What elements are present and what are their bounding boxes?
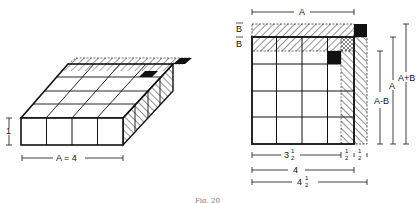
label-a-minus-b: A-B bbox=[374, 96, 389, 106]
figure-canvas: 1 A = 4 A B B bbox=[0, 0, 418, 203]
frac-num-2: 1 bbox=[345, 148, 349, 154]
right-hatch-strip bbox=[354, 37, 367, 144]
left-label-b-inner: B bbox=[236, 39, 242, 49]
top-dimension-label: A bbox=[299, 7, 305, 17]
frac-den-4: 2 bbox=[305, 182, 309, 188]
frac-num: 1 bbox=[291, 148, 295, 154]
corner-black-square bbox=[354, 24, 367, 37]
height-label: 1 bbox=[6, 126, 11, 136]
label-four: 4 bbox=[293, 165, 298, 175]
width-label: A = 4 bbox=[56, 153, 77, 163]
label-a-plus-b: A+B bbox=[398, 73, 415, 83]
frac-num-3: 1 bbox=[358, 148, 362, 154]
frac-den: 2 bbox=[291, 155, 295, 161]
frac-num-4: 1 bbox=[305, 175, 309, 181]
frac-den-3: 2 bbox=[358, 155, 362, 161]
label-three: 3 bbox=[284, 150, 289, 160]
label-four-half: 4 bbox=[297, 177, 302, 187]
square-top-view: A B B bbox=[236, 7, 415, 188]
figure-caption: Fig. 20 bbox=[195, 197, 220, 203]
label-a: A bbox=[389, 81, 395, 91]
top-hatch-strip bbox=[252, 24, 354, 37]
left-label-b-outer: B bbox=[236, 24, 242, 34]
isometric-slab: 1 A = 4 bbox=[6, 58, 192, 163]
bottom-dimensions bbox=[252, 152, 367, 185]
inner-cross-square bbox=[341, 37, 354, 51]
top-inner-black bbox=[139, 71, 158, 77]
back-hatch-strip bbox=[68, 58, 190, 64]
inner-right-hatch bbox=[341, 51, 354, 144]
frac-den-2: 2 bbox=[345, 155, 349, 161]
inner-black-square bbox=[327, 51, 341, 64]
